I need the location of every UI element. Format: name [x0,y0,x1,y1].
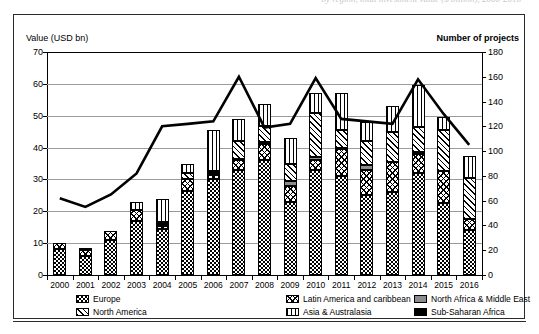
y-tick-label-right: 160 [488,72,503,82]
bar-segment-latin_america [360,170,373,195]
right-axis-title: Number of projects [436,33,519,43]
bar-segment-asia [181,164,194,174]
bar-segment-latin_america [412,154,425,173]
bar-segment-north_africa_me [258,142,271,145]
y-tick-mark-right [482,250,486,251]
bar-segment-asia [360,122,373,141]
y-tick-label-right: 140 [488,97,503,107]
y-tick-mark-right [482,176,486,177]
plot-baseline [47,275,482,276]
bar-2000[interactable] [53,243,66,275]
x-tick-mark [482,275,483,280]
plot-right-border [482,52,483,275]
y-tick-label-left: 0 [38,270,43,280]
bar-2014[interactable] [412,85,425,275]
bar-2002[interactable] [104,231,117,275]
legend-item-sub_saharan[interactable]: Sub-Saharan Africa [414,305,530,318]
legend-item-asia[interactable]: Asia & Australasia [286,305,411,318]
x-tick-label: 2014 [409,280,428,290]
bar-segment-asia [335,93,348,130]
bar-segment-north_africa_me [309,157,322,160]
bar-segment-north_america [412,127,425,152]
x-tick-mark [303,275,304,280]
legend-item-north_africa_me[interactable]: North Africa & Middle East [414,292,530,305]
x-tick-mark [149,275,150,280]
bar-2013[interactable] [386,106,399,275]
x-tick-label: 2005 [178,280,197,290]
legend-label-sub_saharan: Sub-Saharan Africa [431,307,505,317]
x-tick-label: 2016 [460,280,479,290]
bar-segment-europe [130,221,143,275]
x-tick-mark [405,275,406,280]
bar-2001[interactable] [79,249,92,275]
bar-segment-europe [156,229,169,275]
y-tick-mark-left [43,52,47,53]
bar-2009[interactable] [284,138,297,275]
bar-segment-asia [232,119,245,141]
bar-segment-europe [232,170,245,275]
x-tick-mark [47,275,48,280]
x-tick-mark [380,275,381,280]
x-tick-mark [431,275,432,280]
legend-label-north_america: North America [93,307,147,317]
y-tick-label-left: 30 [33,174,43,184]
legend-swatch-latin_america [286,295,299,303]
x-tick-mark [73,275,74,280]
bar-2007[interactable] [232,119,245,275]
bar-2011[interactable] [335,93,348,275]
bar-segment-europe [181,191,194,275]
bar-segment-north_america [437,130,450,171]
legend-column: EuropeNorth America [76,292,147,318]
y-tick-mark-left [43,243,47,244]
x-tick-label: 2007 [229,280,248,290]
x-tick-label: 2006 [204,280,223,290]
legend-item-north_america[interactable]: North America [76,305,147,318]
bar-2005[interactable] [181,164,194,276]
bar-2012[interactable] [360,122,373,275]
legend-item-europe[interactable]: Europe [76,292,147,305]
bar-segment-north_america [258,126,271,142]
y-tick-mark-right [482,201,486,202]
legend-item-latin_america[interactable]: Latin America and caribbean [286,292,411,305]
bar-2004[interactable] [156,199,169,275]
bar-2003[interactable] [130,202,143,275]
x-tick-mark [98,275,99,280]
bar-segment-asia [258,104,271,126]
y-tick-label-right: 0 [488,270,493,280]
bar-segment-europe [463,230,476,275]
x-tick-mark [456,275,457,280]
y-tick-label-left: 60 [33,79,43,89]
x-tick-mark [226,275,227,280]
y-tick-mark-left [43,211,47,212]
x-tick-mark [175,275,176,280]
legend-column: North Africa & Middle EastSub-Saharan Af… [414,292,530,318]
bar-2015[interactable] [437,117,450,275]
x-tick-label: 2008 [255,280,274,290]
bar-segment-europe [437,203,450,275]
bar-2010[interactable] [309,93,322,275]
bar-segment-europe [79,256,92,275]
bar-2008[interactable] [258,104,271,275]
bar-segment-latin_america [156,226,169,229]
bar-segment-latin_america [232,160,245,170]
bar-segment-north_america [232,141,245,159]
x-tick-mark [354,275,355,280]
legend-swatch-europe [76,295,89,303]
bar-2016[interactable] [463,156,476,275]
bar-segment-europe [53,249,66,275]
x-tick-label: 2004 [153,280,172,290]
bar-segment-latin_america [130,210,143,221]
bar-2006[interactable] [207,130,220,275]
legend-bottom-rule [13,321,526,322]
x-tick-mark [201,275,202,280]
x-tick-label: 2001 [76,280,95,290]
y-tick-label-left: 40 [33,143,43,153]
bar-segment-latin_america [207,175,220,180]
bar-segment-asia [207,130,220,171]
legend-swatch-sub_saharan [414,308,427,316]
bar-segment-europe [258,160,271,275]
bar-segment-latin_america [284,186,297,202]
bar-segment-asia [156,199,169,223]
bar-segment-europe [284,202,297,275]
legend-swatch-north_africa_me [414,295,427,303]
